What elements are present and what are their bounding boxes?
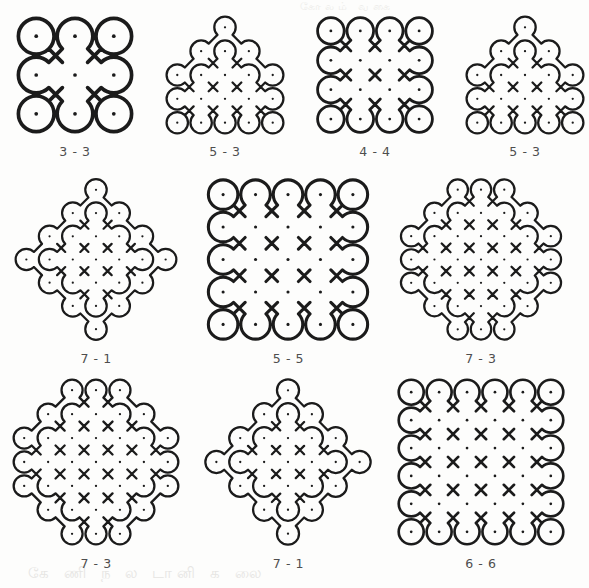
pulli-dot [500, 74, 502, 76]
kolam-canvas [1, 372, 191, 552]
kolam-drawing [1, 372, 191, 552]
kolam-drawing [0, 10, 150, 140]
pulli-dot [72, 282, 74, 284]
pulli-dot [47, 437, 49, 439]
pulli-dot [176, 98, 178, 100]
figure-caption: 5 - 5 [273, 351, 304, 366]
pulli-dot [95, 533, 97, 535]
figure-fig-3: 4 - 4 [300, 10, 450, 159]
figure-caption: 4 - 4 [359, 144, 390, 159]
pulli-dot [222, 290, 225, 293]
pulli-dot [480, 258, 482, 260]
pulli-dot [480, 189, 482, 191]
kolam-dots [34, 34, 115, 115]
kolam-canvas [300, 10, 450, 140]
kolam-drawing [300, 10, 450, 140]
pulli-dot [503, 328, 505, 330]
pulli-dot [438, 530, 441, 533]
pulli-dot [410, 282, 412, 284]
pulli-dot [216, 461, 218, 463]
pulli-dot [319, 290, 322, 293]
pulli-dot [224, 74, 226, 76]
pulli-dot [476, 98, 478, 100]
pulli-dot [433, 258, 435, 260]
pulli-dot [141, 258, 143, 260]
pulli-dot [200, 122, 202, 124]
pulli-dot [143, 485, 145, 487]
pulli-dot [521, 391, 524, 394]
pulli-dot [418, 59, 421, 62]
pulli-dot [95, 212, 97, 214]
pulli-dot [438, 391, 441, 394]
pulli-dot [254, 193, 257, 196]
pulli-dot [25, 258, 27, 260]
pulli-dot [287, 323, 290, 326]
pulli-dot [167, 485, 169, 487]
pulli-dot [272, 74, 274, 76]
pulli-dot [572, 98, 574, 100]
pulli-dot [287, 389, 289, 391]
pulli-dot [493, 447, 496, 450]
pulli-dot [480, 235, 482, 237]
pulli-dot [34, 73, 38, 77]
figure-fig-4: 5 - 3 [450, 10, 589, 159]
pulli-dot [287, 461, 289, 463]
pulli-dot [119, 533, 121, 535]
pulli-dot [176, 74, 178, 76]
pulli-dot [319, 258, 322, 261]
pulli-dot [71, 389, 73, 391]
pulli-dot [95, 437, 97, 439]
pulli-dot [456, 305, 458, 307]
pulli-dot [71, 533, 73, 535]
pulli-dot [388, 118, 391, 121]
pulli-dot [521, 447, 524, 450]
pulli-dot [224, 26, 226, 28]
pulli-dot [311, 509, 313, 511]
pulli-dot [34, 34, 38, 38]
pulli-dot [72, 258, 74, 260]
pulli-dot [72, 235, 74, 237]
pulli-dot [319, 193, 322, 196]
pulli-dot [23, 485, 25, 487]
pulli-dot [95, 485, 97, 487]
pulli-dot [335, 461, 337, 463]
pulli-dot [248, 74, 250, 76]
pulli-dot [548, 50, 550, 52]
pulli-dot [526, 212, 528, 214]
pulli-dot [493, 419, 496, 422]
pulli-dot [410, 447, 413, 450]
pulli-dot [311, 437, 313, 439]
pulli-dot [118, 305, 120, 307]
kolam-canvas [150, 10, 300, 140]
pulli-dot [418, 88, 421, 91]
pulli-dot [95, 461, 97, 463]
pulli-dot [456, 282, 458, 284]
pulli-dot [549, 391, 552, 394]
pulli-dot [524, 74, 526, 76]
pulli-dot [476, 122, 478, 124]
pulli-dot [319, 225, 322, 228]
pulli-dot [95, 389, 97, 391]
pulli-dot [95, 413, 97, 415]
pulli-dot [503, 282, 505, 284]
pulli-dot [119, 509, 121, 511]
pulli-dot [71, 461, 73, 463]
pulli-dot [410, 503, 413, 506]
figure-caption: 7 - 1 [80, 351, 111, 366]
pulli-dot [119, 389, 121, 391]
pulli-dot [410, 475, 413, 478]
kolam-canvas [193, 372, 383, 552]
kolam-drawing [193, 372, 383, 552]
kolam-dots [410, 189, 552, 331]
pulli-dot [329, 59, 332, 62]
pulli-dot [311, 413, 313, 415]
pulli-dot [118, 235, 120, 237]
pulli-dot [359, 118, 362, 121]
pulli-dot [263, 461, 265, 463]
pulli-dot [480, 212, 482, 214]
pulli-dot [476, 74, 478, 76]
pulli-dot [263, 413, 265, 415]
pulli-dot [141, 235, 143, 237]
pulli-dot [438, 447, 441, 450]
pulli-dot [143, 413, 145, 415]
